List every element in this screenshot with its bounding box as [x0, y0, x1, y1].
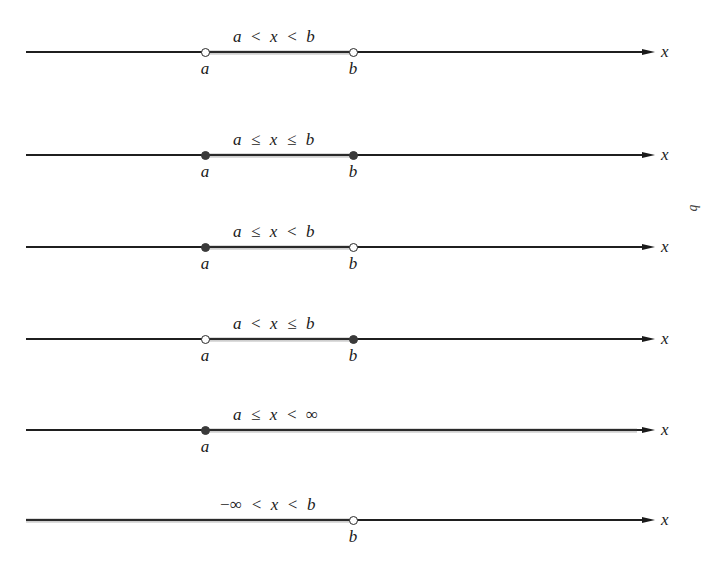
axis-variable-label: x	[661, 421, 669, 438]
axis-variable-label: x	[661, 43, 669, 60]
axis-variable-label: x	[661, 330, 669, 347]
right-endpoint-marker	[349, 151, 358, 160]
left-endpoint-label: a	[195, 255, 215, 272]
arrow-right-icon	[642, 517, 655, 523]
inequality-label: a ≤ x < ∞	[233, 406, 319, 423]
arrow-right-icon	[642, 152, 655, 158]
interval-shading-core	[205, 338, 353, 340]
interval-shading-core	[205, 429, 637, 431]
axis-variable-label: x	[661, 146, 669, 163]
right-endpoint-label: b	[343, 347, 363, 364]
interval-shading-core	[205, 154, 353, 156]
right-endpoint-marker	[349, 48, 358, 57]
inequality-label: a < x < b	[233, 28, 315, 45]
interval-shading-core	[205, 246, 353, 248]
right-endpoint-marker	[349, 243, 358, 252]
inequality-label: a ≤ x ≤ b	[233, 131, 315, 148]
right-endpoint-label: b	[343, 60, 363, 77]
inequality-label: a ≤ x < b	[233, 223, 315, 240]
arrow-right-icon	[642, 427, 655, 433]
right-endpoint-label: b	[343, 528, 363, 545]
arrow-right-icon	[642, 244, 655, 250]
interval-row-open-open: x a b a < x < b	[0, 22, 724, 82]
left-endpoint-label: a	[195, 347, 215, 364]
left-endpoint-marker	[201, 426, 210, 435]
left-endpoint-marker	[201, 151, 210, 160]
left-endpoint-label: a	[195, 438, 215, 455]
right-endpoint-label: b	[343, 255, 363, 272]
left-endpoint-label: a	[195, 60, 215, 77]
inequality-label: −∞ < x < b	[220, 496, 316, 513]
axis-variable-label: x	[661, 238, 669, 255]
interval-shading-core	[205, 51, 353, 53]
left-endpoint-marker	[201, 243, 210, 252]
arrow-right-icon	[642, 49, 655, 55]
interval-row-closed-open: x a b a ≤ x < b	[0, 217, 724, 277]
right-endpoint-marker	[349, 516, 358, 525]
interval-row-closed-infinity: x a a ≤ x < ∞	[0, 400, 724, 460]
left-endpoint-marker	[201, 48, 210, 57]
axis-variable-label: x	[661, 511, 669, 528]
interval-row-closed-closed: x a b a ≤ x ≤ b	[0, 125, 724, 185]
inequality-label: a < x ≤ b	[233, 315, 315, 332]
margin-bleed-through-letter: b	[686, 205, 702, 212]
interval-notation-diagram: x a b a < x < b x a b a ≤ x ≤ b x a b a …	[0, 0, 724, 582]
interval-row-open-closed: x a b a < x ≤ b	[0, 309, 724, 369]
right-endpoint-marker	[349, 335, 358, 344]
right-endpoint-label: b	[343, 163, 363, 180]
left-endpoint-marker	[201, 335, 210, 344]
left-endpoint-label: a	[195, 163, 215, 180]
interval-row-infinity-open: x b −∞ < x < b	[0, 490, 724, 550]
interval-shading-core	[26, 519, 353, 521]
arrow-right-icon	[642, 336, 655, 342]
